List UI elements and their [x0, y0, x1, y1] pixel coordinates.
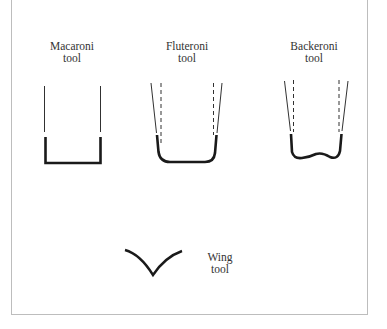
- tool-shapes: [0, 0, 387, 329]
- fluteroni-tool-shape: [151, 83, 222, 162]
- backeroni-tool-shape: [285, 80, 349, 158]
- macaroni-tool-shape: [45, 86, 101, 163]
- wing-tool-shape: [125, 250, 182, 275]
